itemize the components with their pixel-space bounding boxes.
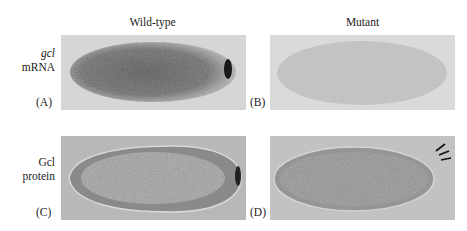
- panel-letter-a: (A): [36, 96, 52, 108]
- row-label-protein-line2: protein: [22, 170, 55, 182]
- row-label-gene: gcl: [0, 46, 55, 60]
- pole-stain: [224, 59, 232, 79]
- panel-d-image: [270, 136, 455, 220]
- panel-letter-c: (C): [36, 206, 51, 218]
- panel-a-image: [61, 35, 246, 110]
- panel-b-image: [270, 35, 455, 110]
- column-title-mutant: Mutant: [270, 16, 455, 28]
- row-label-protein: Gcl protein: [0, 155, 55, 183]
- pole-stain: [235, 166, 241, 186]
- row-label-mrna: gcl mRNA: [0, 46, 55, 74]
- row-label-protein-line1: Gcl: [0, 155, 55, 169]
- panel-letter-d: (D): [250, 206, 266, 218]
- column-title-wild-type: Wild-type: [60, 16, 245, 28]
- panel-letter-b: (B): [250, 96, 265, 108]
- panel-c-image: [61, 136, 246, 220]
- row-label-type: mRNA: [22, 61, 55, 73]
